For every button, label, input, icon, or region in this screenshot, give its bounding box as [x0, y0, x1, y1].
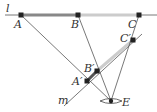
point-b-prime	[95, 69, 100, 74]
point-a-prime	[85, 79, 90, 84]
ray-a-e	[21, 15, 111, 101]
label-c: C	[128, 18, 137, 31]
point-a	[19, 13, 24, 18]
label-m: m	[58, 94, 68, 107]
label-a: A	[13, 18, 22, 31]
point-c	[137, 13, 142, 18]
point-c-prime	[131, 38, 136, 43]
point-b	[76, 13, 81, 18]
label-b: B	[70, 18, 79, 31]
eye-icon	[100, 99, 122, 104]
diagram-canvas: l A B C C′ B′ A′ m E	[0, 0, 157, 112]
label-b-prime: B′	[83, 62, 95, 75]
label-c-prime: C′	[120, 32, 131, 45]
label-a-prime: A′	[71, 75, 83, 88]
label-e: E	[121, 96, 130, 109]
label-l: l	[6, 2, 10, 15]
